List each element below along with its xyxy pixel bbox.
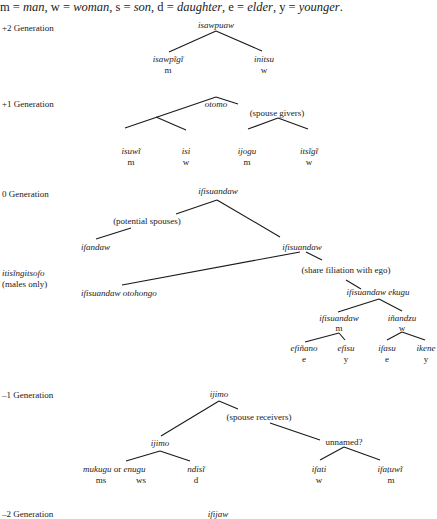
legend-e-key: e xyxy=(228,0,234,14)
term-ifisuandaw-ekugu: ifisuandaw ekugu xyxy=(346,287,409,297)
term-mukugu-or-enugu: mukugu or enugu xyxy=(83,464,146,474)
sex-ifati: w xyxy=(316,475,323,485)
term-efisu: efisu xyxy=(338,343,355,353)
term-isawpigi: isawpĩgĩ xyxy=(153,54,184,64)
note-spouse-givers: (spouse givers) xyxy=(250,108,305,118)
term-ifandaw: ifandaw xyxy=(81,242,110,252)
legend-m-key: m xyxy=(0,0,10,14)
sex-isuwi: m xyxy=(127,157,134,167)
sex-isawpigi: m xyxy=(164,65,171,75)
note-share-filiation: (share filiation with ego) xyxy=(301,265,390,275)
rel-ifasu: e xyxy=(385,354,389,364)
legend-m-value: man xyxy=(23,0,45,14)
note-potential-spouses: (potential spouses) xyxy=(113,216,181,226)
sex-ifatuwi: m xyxy=(387,475,394,485)
generation-label-zero: 0 Generation xyxy=(2,189,49,199)
term-inandzu: iñandzu xyxy=(388,313,417,323)
sex-itsigi: w xyxy=(306,157,313,167)
term-mukugu: mukugu xyxy=(83,464,112,474)
abbreviation-legend: m = man, w = woman, s = son, d = daughte… xyxy=(0,0,437,15)
term-ijimo-root: ijimo xyxy=(210,389,229,399)
rel-ws: ws xyxy=(136,475,146,485)
term-enugu: enugu xyxy=(124,464,146,474)
term-efinano: efiñano xyxy=(291,343,318,353)
sex-inandzu: w xyxy=(399,323,406,333)
term-ifasu: ifasu xyxy=(378,343,396,353)
generation-label-minus2: –2 Generation xyxy=(2,509,53,519)
sex-ijogu: m xyxy=(243,157,250,167)
generation-label-plus1: +1 Generation xyxy=(2,99,54,109)
sex-ifisuandaw-m: m xyxy=(335,323,342,333)
term-otomo: otomo xyxy=(205,99,228,109)
term-itsigi: itsĩgĩ xyxy=(300,146,318,156)
rel-efisu: y xyxy=(344,354,349,364)
term-initsu: initsu xyxy=(254,54,274,64)
rel-ms: ms xyxy=(96,475,107,485)
term-ifatuwi: ifaṭuwĩ xyxy=(377,464,402,474)
word-or: or xyxy=(114,464,122,474)
rel-d: d xyxy=(194,475,199,485)
generation-label-minus1: –1 Generation xyxy=(2,390,53,400)
term-ijimo-branch: ijimo xyxy=(151,438,170,448)
term-isuwi: isuwĩ xyxy=(121,146,140,156)
note-spouse-receivers: (spouse receivers) xyxy=(226,412,291,422)
term-ndisi: ndisĩ xyxy=(187,464,205,474)
legend-w-key: w xyxy=(51,0,60,14)
term-ijogu: ijogu xyxy=(238,146,257,156)
term-itisingitsofo: itisĩngitsofo xyxy=(2,268,45,278)
legend-d-value: daughter xyxy=(177,0,222,14)
term-isawpuaw: isawpuaw xyxy=(198,20,234,30)
term-ifijaw: ifijaw xyxy=(208,509,229,519)
legend-s-key: s xyxy=(116,0,121,14)
term-ifisuandaw-root: ifisuandaw xyxy=(198,186,238,196)
term-ifisuandaw-m: ifisuandaw xyxy=(319,313,359,323)
term-isi: isi xyxy=(182,146,191,156)
term-ifisuandaw-branch: ifisuandaw xyxy=(282,242,322,252)
term-ifisuandaw-otohongo: ifisuandaw otohongo xyxy=(81,288,157,298)
legend-e-value: elder xyxy=(247,0,273,14)
rel-efinano: e xyxy=(302,354,306,364)
term-ifati: ifati xyxy=(312,464,327,474)
legend-w-value: woman xyxy=(73,0,109,14)
legend-y-key: y xyxy=(279,0,285,14)
legend-d-key: d xyxy=(157,0,163,14)
rel-ikene: y xyxy=(424,354,429,364)
note-males-only: (males only) xyxy=(2,279,47,289)
legend-s-value: son xyxy=(134,0,151,14)
legend-y-value: younger xyxy=(299,0,340,14)
generation-label-plus2: +2 Generation xyxy=(2,23,54,33)
note-unnamed: unnamed? xyxy=(326,437,363,447)
sex-initsu: w xyxy=(261,65,268,75)
term-ikene: ikene xyxy=(417,343,436,353)
sex-isi: w xyxy=(183,157,190,167)
